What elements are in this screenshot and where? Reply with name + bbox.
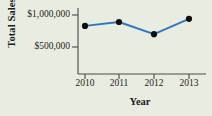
x-axis-title: Year — [70, 96, 210, 107]
x-axis-tick-label: 2010 — [68, 78, 102, 88]
x-axis-tick-label: 2012 — [137, 78, 171, 88]
line-chart-figure: Total Sales $1,000,000 $500,000 2010 201… — [0, 0, 212, 116]
data-series-line — [85, 19, 189, 34]
data-point-marker — [151, 31, 157, 37]
x-axis-tick-label: 2013 — [172, 78, 206, 88]
data-point-marker — [186, 16, 192, 22]
data-point-marker — [82, 23, 88, 29]
x-axis-tick-label: 2011 — [102, 78, 136, 88]
data-point-marker — [116, 19, 122, 25]
